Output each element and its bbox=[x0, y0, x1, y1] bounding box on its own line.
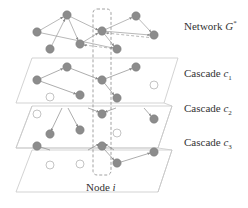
node-active bbox=[150, 148, 158, 156]
node-active bbox=[63, 63, 71, 71]
node-active bbox=[113, 94, 121, 102]
network-label: Network G* bbox=[184, 19, 237, 32]
node-active bbox=[113, 159, 121, 167]
node-active bbox=[33, 142, 41, 150]
node-active bbox=[113, 45, 121, 53]
node-active bbox=[132, 12, 140, 20]
node-hollow bbox=[113, 129, 121, 137]
node-active bbox=[150, 31, 158, 39]
node-i-active bbox=[98, 76, 106, 84]
node-i-active bbox=[98, 142, 106, 150]
node-active bbox=[150, 115, 158, 123]
cascade-3-label: Cascade c3 bbox=[184, 136, 232, 151]
node-active bbox=[76, 40, 84, 48]
node-active bbox=[46, 45, 54, 53]
node-i-label: Node i bbox=[86, 181, 116, 193]
node-active bbox=[33, 76, 41, 84]
node-hollow bbox=[76, 160, 84, 168]
node-i-active bbox=[98, 110, 106, 118]
node-hollow bbox=[46, 93, 54, 101]
cascade-2-label: Cascade c2 bbox=[184, 102, 232, 117]
node-active bbox=[76, 126, 84, 134]
node-i-active bbox=[98, 27, 106, 35]
node-hollow bbox=[150, 81, 158, 89]
node-active bbox=[33, 28, 41, 36]
node-active bbox=[46, 130, 54, 138]
network-layer bbox=[33, 11, 158, 53]
node-active bbox=[76, 91, 84, 99]
node-active bbox=[63, 11, 71, 19]
cascade-1-label: Cascade c1 bbox=[184, 67, 232, 82]
node-active bbox=[132, 63, 140, 71]
node-hollow bbox=[46, 161, 54, 169]
node-hollow bbox=[33, 110, 41, 118]
